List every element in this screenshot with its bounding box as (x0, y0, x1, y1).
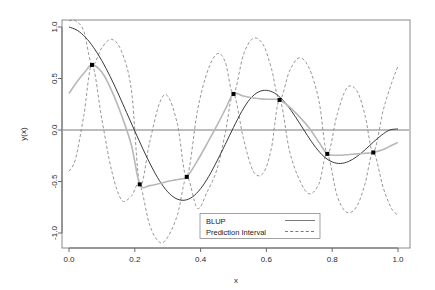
legend-label-prediction-interval[interactable]: Prediction Interval (206, 228, 266, 237)
y-tick-label: 0.5 (50, 72, 59, 84)
x-tick-label: 0.2 (129, 255, 141, 264)
blup-prediction-interval-chart: 1.00.50.0-0.5-1.0 0.00.20.40.60.81.0 x y… (0, 0, 435, 290)
design-point (371, 150, 375, 154)
x-axis: 0.00.20.40.60.81.0 (63, 248, 404, 264)
chart-root: 1.00.50.0-0.5-1.0 0.00.20.40.60.81.0 x y… (0, 0, 435, 290)
x-tick-label: 0.6 (261, 255, 273, 264)
legend[interactable]: BLUP Prediction Interval (200, 214, 320, 239)
y-tick-label: -1.0 (50, 226, 59, 240)
x-axis-title: x (234, 276, 238, 285)
design-point (278, 98, 282, 102)
prediction-interval-curves (69, 20, 398, 243)
legend-label-blup[interactable]: BLUP (206, 217, 226, 226)
series-curves (69, 27, 398, 200)
series-true-function (69, 27, 398, 200)
y-axis: 1.00.50.0-0.5-1.0 (50, 21, 62, 240)
design-point (232, 92, 236, 96)
y-axis-title: y(x) (19, 127, 28, 141)
design-point (185, 175, 189, 179)
design-point-markers (90, 63, 375, 186)
x-tick-label: 0.8 (327, 255, 339, 264)
y-tick-label: 1.0 (50, 21, 59, 33)
y-tick-label: 0.0 (50, 124, 59, 136)
y-tick-label: -0.5 (50, 174, 59, 188)
prediction-interval-upper (69, 20, 398, 186)
design-point (325, 152, 329, 156)
x-tick-label: 0.0 (63, 255, 75, 264)
x-tick-label: 0.4 (195, 255, 207, 264)
design-point (90, 63, 94, 67)
design-point (138, 182, 142, 186)
x-tick-label: 1.0 (392, 255, 404, 264)
